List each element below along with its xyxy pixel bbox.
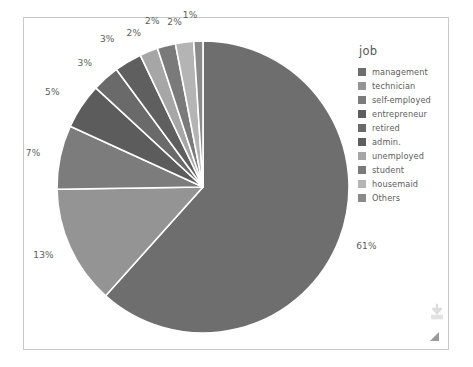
legend-swatch [358, 166, 366, 174]
legend-item[interactable]: entrepreneur [358, 107, 450, 120]
legend-item[interactable]: management [358, 65, 450, 78]
pie-percent-label: 3% [78, 58, 93, 68]
legend-title: job [359, 44, 450, 58]
legend-items: managementtechnicianself-employedentrepr… [358, 65, 450, 204]
screenshot-root: 61%13%7%5%3%3%2%2%2%1% job managementtec… [0, 0, 473, 367]
legend-item[interactable]: unemployed [358, 149, 450, 162]
pie-percent-label: 13% [33, 250, 54, 260]
pie-percent-label: 5% [45, 87, 60, 97]
legend-swatch [358, 152, 366, 160]
legend-swatch [358, 68, 366, 76]
pie-percent-label: 3% [100, 34, 115, 44]
legend-item[interactable]: admin. [358, 135, 450, 148]
legend-swatch [358, 124, 366, 132]
legend-swatch [358, 138, 366, 146]
pie-percent-label: 2% [167, 17, 182, 27]
legend-item-label: student [372, 165, 404, 175]
pie-percent-label: 7% [26, 148, 41, 158]
legend-swatch [358, 194, 366, 202]
legend-item-label: Others [372, 193, 400, 203]
legend-item[interactable]: housemaid [358, 177, 450, 190]
pie-percent-label: 2% [145, 16, 160, 26]
pie-chart-svg [54, 38, 352, 336]
legend-item[interactable]: student [358, 163, 450, 176]
legend-item[interactable]: self-employed [358, 93, 450, 106]
legend-item-label: management [372, 67, 428, 77]
legend-item-label: self-employed [372, 95, 431, 105]
pie-percent-label: 61% [356, 241, 377, 251]
legend-item[interactable]: technician [358, 79, 450, 92]
pie-percent-label: 1% [183, 10, 198, 20]
legend: job managementtechnicianself-employedent… [358, 44, 450, 205]
resize-handle-icon[interactable] [428, 330, 440, 342]
legend-swatch [358, 180, 366, 188]
legend-swatch [358, 96, 366, 104]
legend-item-label: unemployed [372, 151, 424, 161]
download-icon[interactable] [426, 301, 448, 323]
pie-percent-label: 2% [127, 28, 142, 38]
legend-item-label: admin. [372, 137, 401, 147]
pie-chart: 61%13%7%5%3%3%2%2%2%1% [54, 38, 352, 336]
legend-item-label: technician [372, 81, 415, 91]
legend-item[interactable]: retired [358, 121, 450, 134]
legend-swatch [358, 110, 366, 118]
pie-slices [57, 41, 349, 333]
legend-item-label: housemaid [372, 179, 418, 189]
legend-swatch [358, 82, 366, 90]
legend-item[interactable]: Others [358, 191, 450, 204]
legend-item-label: retired [372, 123, 400, 133]
chart-panel: 61%13%7%5%3%3%2%2%2%1% job managementtec… [23, 17, 449, 350]
legend-item-label: entrepreneur [372, 109, 427, 119]
